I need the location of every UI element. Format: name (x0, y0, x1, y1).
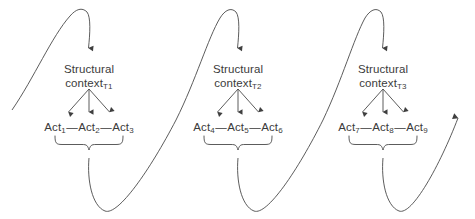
act-connector: — (394, 121, 407, 133)
unit-connectors (163, 0, 313, 219)
context-subscript: T2 (252, 81, 262, 90)
act-label: Act (112, 121, 129, 133)
act-label: Act (372, 121, 389, 133)
act-connector: — (360, 121, 373, 133)
context-line-2: context (359, 77, 397, 89)
act-label: Act (44, 121, 61, 133)
context-unit: Structural contextT3 Act7 — Act8 — Act9 (308, 0, 458, 219)
context-line-1: Structural (213, 63, 263, 75)
act-label: Act (338, 121, 355, 133)
act-label: Act (78, 121, 95, 133)
act-connector: — (66, 121, 79, 133)
act-connector: — (100, 121, 113, 133)
act-connector: — (249, 121, 262, 133)
act-connector: — (215, 121, 228, 133)
act-subscript: 3 (129, 126, 134, 135)
context-subscript: T3 (397, 81, 407, 90)
act-label: Act (406, 121, 423, 133)
act-label: Act (193, 121, 210, 133)
context-line-1: Structural (64, 63, 114, 75)
act-node: Act1 (44, 121, 65, 135)
act-node: Act5 (227, 121, 248, 135)
structural-context-label: Structural contextT1 (14, 63, 164, 93)
structural-context-label: Structural contextT3 (308, 63, 458, 93)
act-node: Act3 (112, 121, 133, 135)
context-line-2: context (65, 77, 103, 89)
context-subscript: T1 (103, 81, 113, 90)
acts-brace (55, 136, 123, 150)
unit-connectors (308, 0, 458, 219)
context-line-2: context (214, 77, 252, 89)
act-node: Act2 (78, 121, 99, 135)
context-unit: Structural contextT1 Act1 — Act2 — Act3 (14, 0, 164, 219)
acts-row: Act7 — Act8 — Act9 (308, 121, 458, 135)
unit-connectors (14, 0, 164, 219)
act-node: Act7 (338, 121, 359, 135)
act-node: Act4 (193, 121, 214, 135)
context-unit: Structural contextT2 Act4 — Act5 — Act6 (163, 0, 313, 219)
acts-row: Act4 — Act5 — Act6 (163, 121, 313, 135)
act-subscript: 6 (278, 126, 283, 135)
acts-brace (204, 136, 272, 150)
act-node: Act6 (261, 121, 282, 135)
structural-context-label: Structural contextT2 (163, 63, 313, 93)
act-node: Act8 (372, 121, 393, 135)
act-node: Act9 (406, 121, 427, 135)
act-label: Act (227, 121, 244, 133)
acts-brace (349, 136, 417, 150)
act-subscript: 9 (423, 126, 428, 135)
acts-row: Act1 — Act2 — Act3 (14, 121, 164, 135)
context-line-1: Structural (358, 63, 408, 75)
act-label: Act (261, 121, 278, 133)
diagram-canvas: Structural contextT1 Act1 — Act2 — Act3 … (0, 0, 475, 219)
